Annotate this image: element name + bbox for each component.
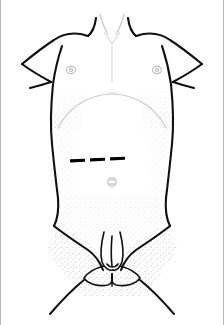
figure-subject-label: infant-male-torso (2, 24, 33, 29)
figure-title-text: Anterior view of infant torso with surgi… (2, 6, 103, 11)
incision-marking-label: incision-line (2, 12, 24, 17)
anatomical-figure: Anterior view of infant torso with surgi… (0, 0, 224, 325)
figure-view-label: anterior (2, 18, 16, 23)
anatomical-illustration-canvas: Anterior view of infant torso with surgi… (0, 0, 224, 325)
penis-midline (111, 236, 112, 266)
